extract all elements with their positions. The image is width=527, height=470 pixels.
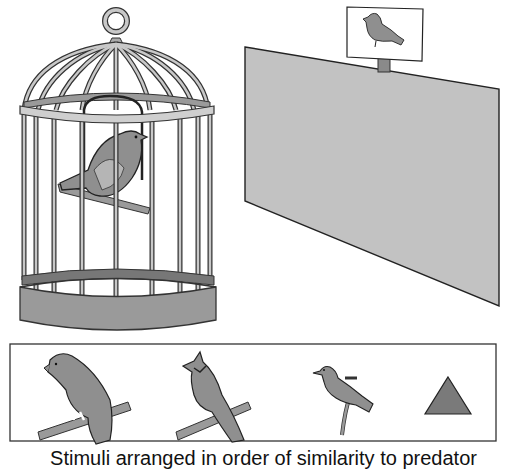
bird-sign bbox=[347, 7, 423, 72]
stimuli-panel bbox=[10, 344, 496, 444]
projection-screen bbox=[245, 47, 499, 306]
figure-caption: Stimuli arranged in order of similarity … bbox=[0, 447, 527, 470]
birdcage bbox=[20, 10, 216, 330]
